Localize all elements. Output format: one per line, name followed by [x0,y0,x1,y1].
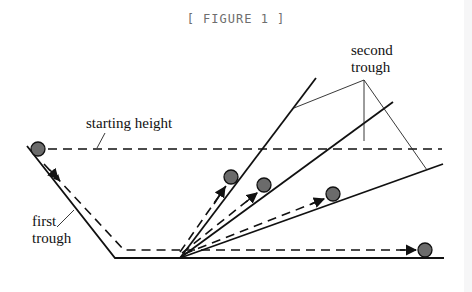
second-trough-pointer-b [364,80,427,170]
first-trough-pointer [57,210,74,227]
label-second-trough-1: second [351,42,393,58]
ball-flat [418,243,432,257]
ball-path-shallow [184,199,324,254]
ball-shallow [326,187,340,201]
label-second-trough-2: trough [351,59,391,75]
ball-medium [257,178,271,192]
label-first-trough-2: trough [32,230,72,246]
starting-height-pointer [97,133,105,148]
trough-diagram: starting height first trough second trou… [0,0,472,292]
arrow-shallow-icon [311,199,324,204]
ball-steep [224,170,238,184]
ramp-steep [180,78,316,258]
label-starting-height: starting height [86,115,173,131]
ramp-shallow [180,164,443,258]
ball-start [31,142,45,156]
first-trough-track [27,146,444,258]
arrow-medium-icon [246,193,257,202]
label-first-trough-1: first [32,213,57,229]
ramp-medium [180,102,393,258]
